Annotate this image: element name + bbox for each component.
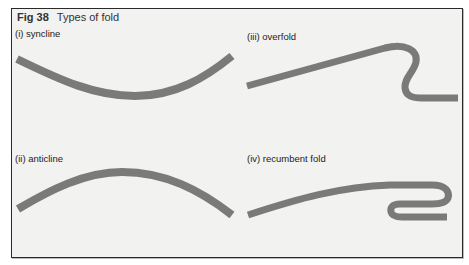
figure-caption: Fig 38Types of fold [17, 11, 119, 23]
panel-label-syncline: (i) syncline [15, 28, 60, 39]
figure-title: Types of fold [57, 11, 119, 23]
panel-label-overfold: (iii) overfold [247, 31, 296, 42]
panel-label-anticline: (ii) anticline [15, 153, 63, 164]
figure-number: Fig 38 [17, 11, 49, 23]
figure-frame: Fig 38Types of fold [11, 8, 463, 258]
panel-label-recumbent-fold: (iv) recumbent fold [247, 153, 326, 164]
